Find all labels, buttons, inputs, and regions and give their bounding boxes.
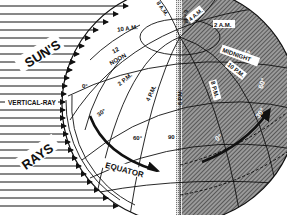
label-noon: NOON [109, 52, 128, 66]
lat-0: 0° [82, 83, 88, 89]
label-8am: 8 A.M. [155, 0, 169, 17]
vertical-ray-label: VERTICAL-RAY [8, 99, 56, 106]
night-hemisphere [176, 0, 287, 215]
label-6pm: 6 P.M. [177, 89, 183, 105]
lat-30: 30° [96, 107, 107, 117]
lat-60: 60° [133, 135, 143, 141]
label-12-num: 12 [111, 46, 120, 55]
label-2am: 2 A.M. [214, 22, 232, 28]
earth-sun-rays-diagram: SUN'S RAYS VERTICAL-RAY 8 A.M. 6 A.M. 10… [0, 0, 287, 215]
label-4pm: 4 P.M. [145, 84, 158, 102]
lat-90: 90 [168, 134, 175, 140]
